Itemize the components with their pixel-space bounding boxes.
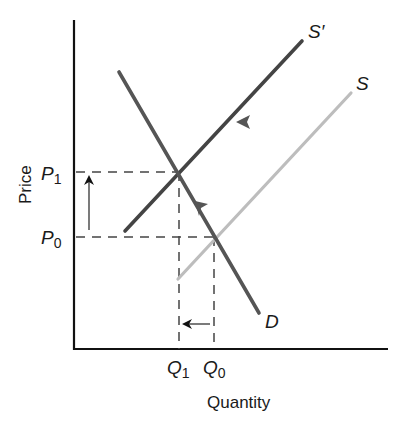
supply-shifted-label: S′: [308, 21, 326, 42]
p0-base: P: [41, 227, 54, 248]
q0-base: Q: [203, 357, 218, 378]
p1-base: P: [41, 163, 54, 184]
p0-sub: 0: [54, 235, 62, 251]
supply-original-label: S: [356, 73, 369, 94]
x-axis-label: Quantity: [207, 393, 271, 412]
p1-sub: 1: [54, 171, 62, 187]
supply-demand-diagram: S′ S D P1 P0 Q1 Q0 Quantity Price: [0, 0, 395, 424]
q0-label: Q0: [203, 357, 226, 381]
q1-sub: 1: [182, 365, 190, 381]
y-axis-label: Price: [16, 165, 35, 204]
supply-curve-s-prime: [125, 41, 302, 231]
q1-base: Q: [167, 357, 182, 378]
q1-label: Q1: [167, 357, 190, 381]
p1-label: P1: [41, 163, 62, 187]
demand-label: D: [265, 311, 279, 332]
q0-sub: 0: [218, 365, 226, 381]
p0-label: P0: [41, 227, 62, 251]
